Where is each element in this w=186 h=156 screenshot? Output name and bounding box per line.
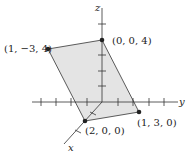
x-axis-label: x bbox=[68, 142, 74, 153]
y-axis-label: y bbox=[179, 96, 185, 107]
vertex-label-2-0-0: (2, 0, 0) bbox=[85, 125, 125, 136]
parallelogram bbox=[48, 40, 139, 121]
z-axis-label: z bbox=[95, 2, 100, 13]
vertex-label-1-3-0: (1, 3, 0) bbox=[137, 117, 177, 128]
vertex-label-0-0-4: (0, 0, 4) bbox=[112, 35, 152, 46]
vertex-label-1-neg3-4: (1, −3, 4) bbox=[4, 43, 52, 54]
